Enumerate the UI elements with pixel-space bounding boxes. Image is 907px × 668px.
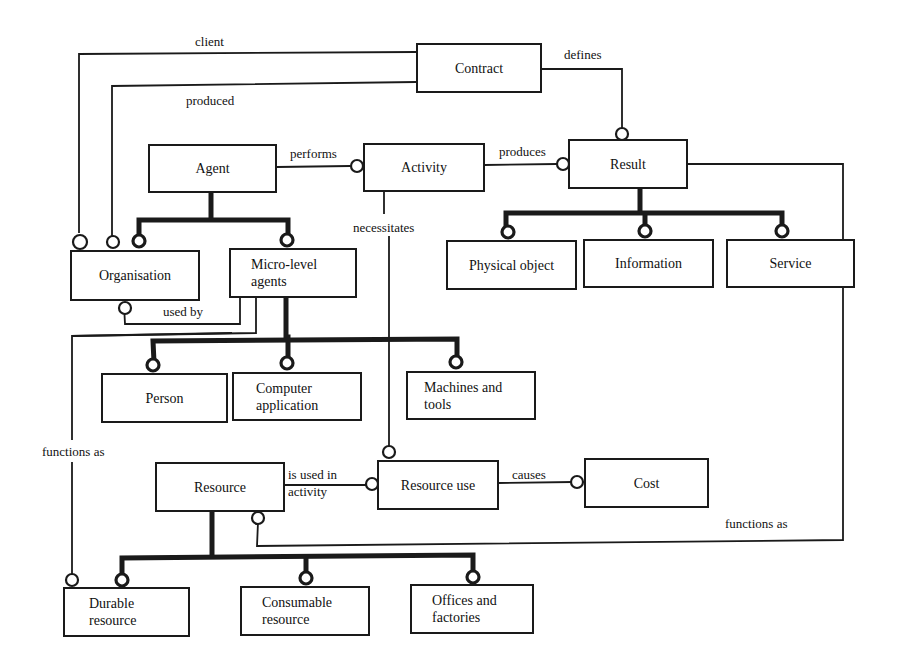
- entity-resource[interactable]: Resource: [155, 462, 285, 512]
- entity-micro-level-agents[interactable]: Micro-level agents: [229, 248, 357, 298]
- relation-label-necessitates: necessitates: [353, 220, 414, 235]
- relation-label-produced: produced: [186, 93, 234, 108]
- entity-label: Physical object: [469, 257, 554, 274]
- entity-organisation[interactable]: Organisation: [70, 250, 200, 301]
- relation-label-defines: defines: [564, 47, 602, 62]
- entity-agent[interactable]: Agent: [148, 144, 277, 193]
- entity-label-line2: factories: [432, 609, 497, 626]
- entity-label: Resource: [194, 479, 246, 496]
- entity-label: Contract: [455, 60, 503, 77]
- relation-label-functions-as-left: functions as: [42, 444, 104, 459]
- entity-cost[interactable]: Cost: [584, 458, 709, 508]
- relation-label-causes: causes: [512, 467, 546, 482]
- entity-contract[interactable]: Contract: [416, 43, 542, 93]
- entity-label-line2: resource: [262, 611, 332, 628]
- entity-label-line1: Durable: [89, 595, 136, 612]
- connector-lines: [0, 0, 907, 668]
- relation-label-functions-as-right: functions as: [725, 516, 787, 531]
- entity-information[interactable]: Information: [583, 239, 714, 288]
- entity-resource-use[interactable]: Resource use: [377, 460, 499, 510]
- entity-offices-and-factories[interactable]: Offices and factories: [410, 584, 534, 634]
- relation-label-produces: produces: [499, 144, 546, 159]
- entity-label-line1: Micro-level: [251, 256, 317, 273]
- entity-label: Activity: [401, 159, 447, 176]
- entity-consumable-resource[interactable]: Consumable resource: [240, 586, 370, 636]
- entity-label: Resource use: [401, 477, 475, 494]
- entity-physical-object[interactable]: Physical object: [446, 240, 577, 290]
- entity-label: Person: [145, 390, 183, 407]
- relation-label-is-used-in-line1: is used in: [288, 467, 337, 482]
- entity-label-line1: Computer: [256, 380, 318, 397]
- entity-label-line2: resource: [89, 612, 136, 629]
- entity-label: Cost: [634, 475, 660, 492]
- entity-activity[interactable]: Activity: [363, 143, 485, 192]
- relation-label-client: client: [195, 34, 224, 49]
- entity-label: Organisation: [99, 267, 171, 284]
- entity-label-line2: application: [256, 397, 318, 414]
- entity-machines-and-tools[interactable]: Machines and tools: [406, 371, 536, 420]
- entity-durable-resource[interactable]: Durable resource: [63, 587, 190, 637]
- entity-label: Information: [615, 255, 682, 272]
- entity-label: Result: [610, 156, 646, 173]
- entity-label-line2: agents: [251, 273, 317, 290]
- entity-label-line1: Machines and: [424, 379, 502, 396]
- entity-label: Service: [770, 255, 812, 272]
- entity-label-line1: Consumable: [262, 594, 332, 611]
- relation-label-performs: performs: [290, 146, 337, 161]
- relation-label-is-used-in-line2: activity: [288, 484, 327, 499]
- relation-label-used-by: used by: [163, 304, 203, 319]
- entity-label-line1: Offices and: [432, 592, 497, 609]
- entity-label-line2: tools: [424, 396, 502, 413]
- entity-result[interactable]: Result: [568, 139, 688, 189]
- entity-label: Agent: [195, 160, 229, 177]
- entity-person[interactable]: Person: [101, 373, 228, 423]
- entity-computer-application[interactable]: Computer application: [232, 372, 362, 421]
- entity-service[interactable]: Service: [726, 239, 855, 288]
